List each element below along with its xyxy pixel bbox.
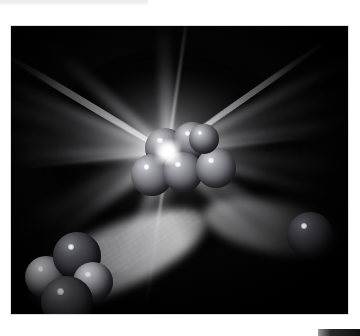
top-edge-strip (0, 0, 148, 5)
nucleon-right-1 (287, 212, 333, 258)
bottom-right-bar (318, 329, 360, 336)
nucleon-core-6 (189, 124, 219, 154)
illustration-scene (11, 26, 348, 314)
central-flash (155, 140, 181, 164)
nucleon-core-5 (196, 148, 236, 188)
figure-image (11, 26, 348, 314)
